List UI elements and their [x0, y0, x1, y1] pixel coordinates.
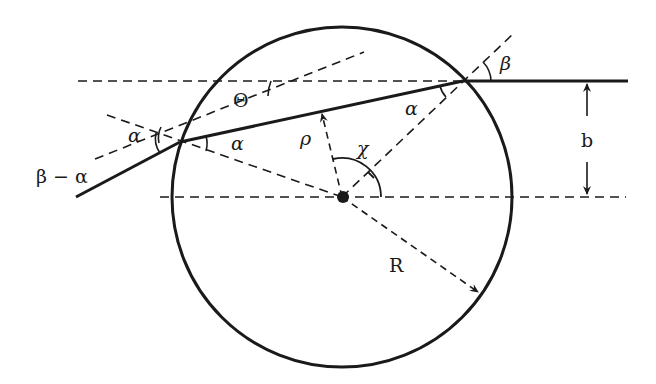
rho-arrow — [322, 114, 342, 197]
radius-label: R — [389, 254, 404, 276]
theta-label: Θ — [233, 89, 249, 111]
alpha-left-outer-label: α — [128, 124, 141, 146]
theta-angle-arc — [268, 81, 271, 96]
beta-label: β — [499, 52, 511, 74]
exit-ray — [76, 142, 180, 197]
alpha-right-label: α — [405, 97, 418, 119]
alpha-right-angle-arc — [440, 86, 446, 97]
beta-minus-alpha-label: β − α — [36, 165, 88, 187]
refraction-diagram: Θ β α α α β − α ρ χ b R — [0, 0, 656, 384]
chi-label: χ — [355, 137, 370, 159]
alpha-left-inner-label: α — [231, 132, 244, 154]
beta-angle-arc — [483, 62, 491, 81]
radius-arrow — [342, 197, 478, 292]
b-label: b — [581, 129, 593, 151]
alpha-left-inner-angle-arc — [206, 136, 207, 151]
internal-ray — [180, 81, 463, 142]
center-point — [337, 191, 349, 203]
alpha-left-outer-arc-2 — [158, 127, 161, 143]
rho-label: ρ — [299, 127, 312, 149]
